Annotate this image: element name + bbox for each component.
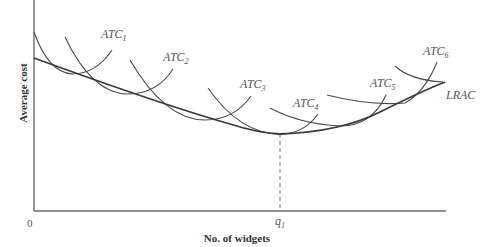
atc4-curve bbox=[208, 88, 318, 134]
atc4-label: ATC4 bbox=[292, 96, 319, 112]
lrac-label: LRAC bbox=[445, 88, 476, 102]
atc5-label: ATC5 bbox=[369, 76, 396, 92]
atc2-label: ATC2 bbox=[162, 50, 189, 66]
atc6-left-curve bbox=[395, 66, 443, 82]
q1-label: q1 bbox=[275, 214, 285, 230]
lrac-atc-chart: ATC1 ATC2 ATC3 ATC4 ATC5 ATC6 LRAC 0 q1 … bbox=[0, 0, 492, 247]
atc3-label: ATC3 bbox=[239, 77, 266, 93]
atc1-label: ATC1 bbox=[100, 27, 127, 43]
atc2-curve bbox=[65, 37, 173, 94]
x-axis-label: No. of widgets bbox=[204, 232, 271, 244]
origin-label: 0 bbox=[27, 217, 33, 229]
atc6-label: ATC6 bbox=[422, 44, 449, 60]
y-axis-label: Average cost bbox=[17, 63, 29, 123]
atc5-curve bbox=[270, 95, 386, 126]
lrac-curve bbox=[34, 58, 445, 134]
